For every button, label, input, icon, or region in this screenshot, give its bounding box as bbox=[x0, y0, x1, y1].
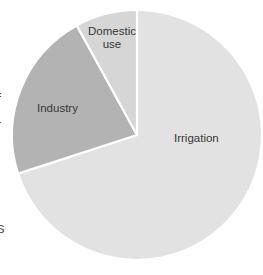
cropped-text-fragment-f: f bbox=[0, 91, 1, 107]
cropped-text-fragment-dash: - bbox=[0, 114, 2, 130]
slice-label-irrigation: Irrigation bbox=[174, 132, 226, 145]
slice-label-domestic-use: Domestic use bbox=[85, 25, 139, 51]
slice-label-industry: Industry bbox=[37, 102, 85, 115]
cropped-text-fragment-s: s bbox=[0, 219, 5, 236]
scanned-pie-chart-figure: Domestic use Industry Irrigation f - s bbox=[0, 0, 263, 275]
